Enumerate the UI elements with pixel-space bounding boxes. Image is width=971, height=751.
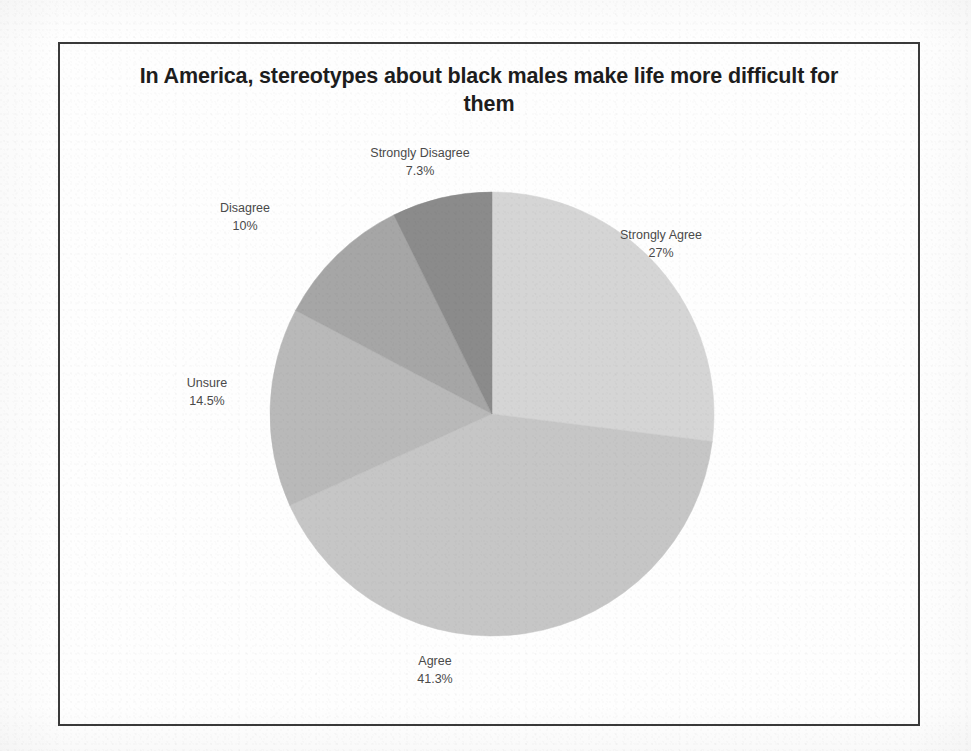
pie-chart: Strongly Agree 27% Agree 41.3% Unsure 14… <box>60 44 922 728</box>
chart-frame: In America, stereotypes about black male… <box>58 42 920 726</box>
pie-label-agree-value: 41.3% <box>350 670 520 688</box>
pie-label-strongly-agree-value: 27% <box>576 244 746 262</box>
pie-label-disagree: Disagree 10% <box>160 199 330 235</box>
pie-label-disagree-name: Disagree <box>160 199 330 217</box>
pie-label-agree: Agree 41.3% <box>350 652 520 688</box>
pie-label-unsure-name: Unsure <box>122 374 292 392</box>
pie-label-strongly-disagree: Strongly Disagree 7.3% <box>325 144 515 180</box>
pie-label-strongly-agree-name: Strongly Agree <box>576 226 746 244</box>
pie-label-disagree-value: 10% <box>160 217 330 235</box>
pie-label-strongly-disagree-name: Strongly Disagree <box>325 144 515 162</box>
pie-label-unsure-value: 14.5% <box>122 392 292 410</box>
pie-label-strongly-disagree-value: 7.3% <box>325 162 515 180</box>
pie-label-agree-name: Agree <box>350 652 520 670</box>
pie-label-strongly-agree: Strongly Agree 27% <box>576 226 746 262</box>
pie-label-unsure: Unsure 14.5% <box>122 374 292 410</box>
